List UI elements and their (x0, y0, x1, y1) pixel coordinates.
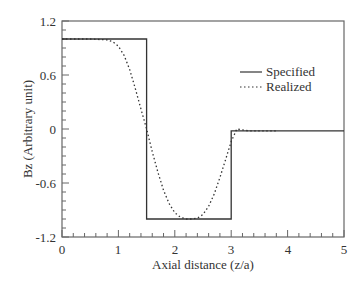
x-tick-label: 1 (115, 242, 122, 257)
series-realized (62, 39, 276, 219)
y-tick-label: -0.6 (35, 176, 56, 191)
chart: 1.2 0.6 0 -0.6 -1.2 0 1 2 3 4 5 Axial di… (0, 0, 363, 285)
x-tick-label: 5 (341, 242, 348, 257)
y-tick-label: 1.2 (40, 14, 56, 29)
axis-ticks (62, 21, 344, 237)
x-tick-label: 4 (285, 242, 292, 257)
legend-label-realized: Realized (266, 79, 312, 94)
y-tick-label: 0 (50, 122, 57, 137)
x-tick-label: 2 (172, 242, 179, 257)
y-tick-label: -1.2 (35, 230, 56, 245)
x-tick-label: 3 (228, 242, 235, 257)
plot-frame (62, 21, 344, 237)
y-axis-title: Bz (Arbitrary unit) (20, 80, 35, 178)
x-axis-title: Axial distance (z/a) (152, 257, 254, 272)
legend-label-specified: Specified (266, 64, 316, 79)
legend: Specified Realized (240, 64, 316, 94)
y-tick-label: 0.6 (40, 68, 57, 83)
x-tick-label: 0 (59, 242, 66, 257)
